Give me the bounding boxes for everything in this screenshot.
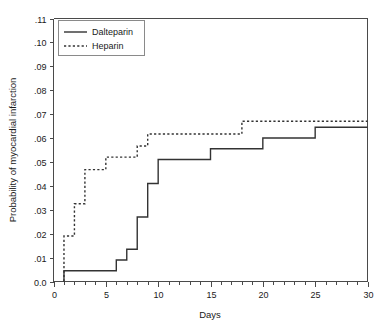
y-tick-label: .07 [34, 110, 47, 120]
chart-background [0, 0, 386, 327]
y-tick-label: .10 [34, 38, 47, 48]
y-tick-label: .06 [34, 134, 47, 144]
x-axis-title: Days [199, 309, 221, 320]
y-tick-label: .11 [35, 15, 47, 25]
legend-label-dalteparin: Dalteparin [92, 27, 133, 37]
y-tick-label: .05 [34, 158, 47, 168]
kaplan-meier-chart: 0.0.01.02.03.04.05.06.07.08.09.10.11 051… [0, 0, 386, 327]
x-tick-label: 15 [206, 290, 216, 300]
y-tick-label: .04 [34, 182, 47, 192]
y-tick-label: .01 [34, 254, 47, 264]
y-tick-label: .09 [34, 62, 47, 72]
y-axis-title: Probability of myocardial infarction [7, 78, 18, 223]
legend-label-heparin: Heparin [92, 41, 124, 51]
x-tick-label: 20 [258, 290, 268, 300]
y-tick-label: .03 [34, 206, 47, 216]
y-tick-label: .02 [34, 230, 47, 240]
x-tick-label: 0 [52, 290, 57, 300]
x-tick-label: 30 [363, 290, 373, 300]
y-tick-label: 0.0 [34, 278, 47, 288]
chart-figure: 0.0.01.02.03.04.05.06.07.08.09.10.11 051… [0, 0, 386, 327]
x-tick-label: 10 [153, 290, 163, 300]
chart-legend: Dalteparin Heparin [59, 21, 145, 56]
x-tick-label: 25 [310, 290, 320, 300]
x-tick-label: 5 [104, 290, 109, 300]
y-tick-label: .08 [34, 86, 47, 96]
